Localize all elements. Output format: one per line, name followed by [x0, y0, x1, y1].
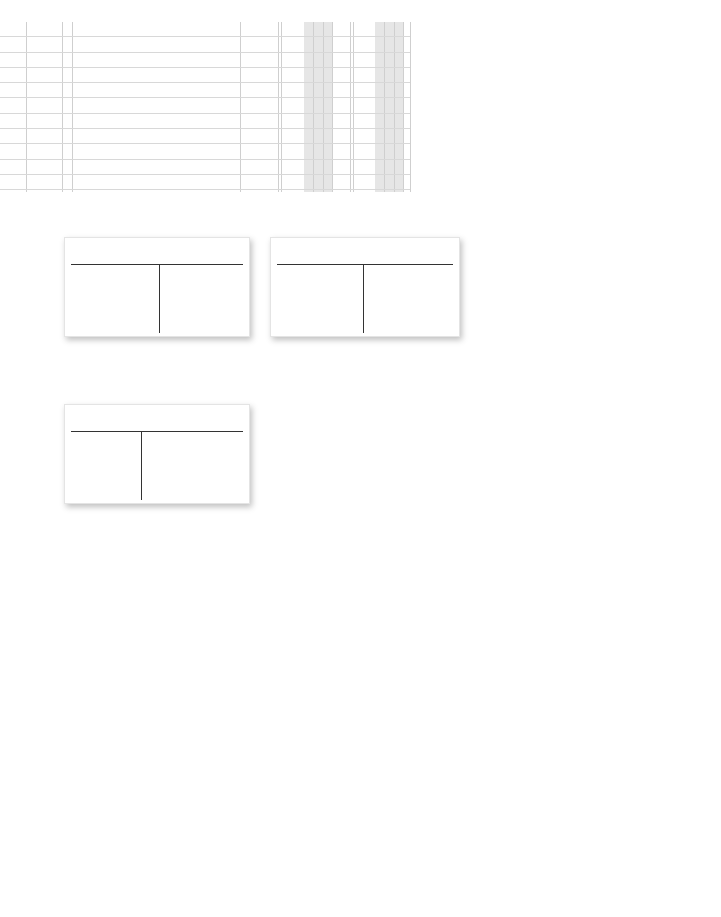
t-account-medicare-tax-payable [270, 237, 460, 337]
t-account-divider [277, 264, 453, 265]
journal-row-5 [0, 83, 410, 98]
t-account-divider [363, 265, 364, 333]
credit-entry [371, 315, 453, 331]
journal-row-8 [0, 129, 410, 144]
journal-row-11 [0, 175, 410, 190]
t-account-office-salaries-expense [64, 237, 250, 337]
journal-row-2 [0, 37, 410, 52]
t-account-divider [141, 432, 142, 500]
t-account-divider [159, 265, 160, 333]
t-account-shipping-wages-expense [64, 404, 250, 504]
debit-entry [69, 482, 137, 498]
debit-entry [69, 283, 155, 299]
debit-entry [69, 299, 155, 315]
t-account-divider [71, 264, 243, 265]
journal-row-6 [0, 99, 410, 114]
credit-entry [371, 267, 453, 283]
debit-entry [69, 466, 137, 482]
journal-row-3 [0, 53, 410, 68]
journal-row-4 [0, 68, 410, 83]
journal-row-9 [0, 144, 410, 159]
debit-entry [69, 434, 137, 450]
debit-entry [69, 450, 137, 466]
debit-entry [69, 267, 155, 283]
journal-row-7 [0, 114, 410, 129]
grid-line [410, 22, 411, 192]
credit-entry [371, 299, 453, 315]
journal-row-10 [0, 160, 410, 175]
journal-row-1 [0, 22, 410, 37]
t-account-divider [71, 431, 243, 432]
debit-entry [69, 315, 155, 331]
credit-entry [371, 283, 453, 299]
